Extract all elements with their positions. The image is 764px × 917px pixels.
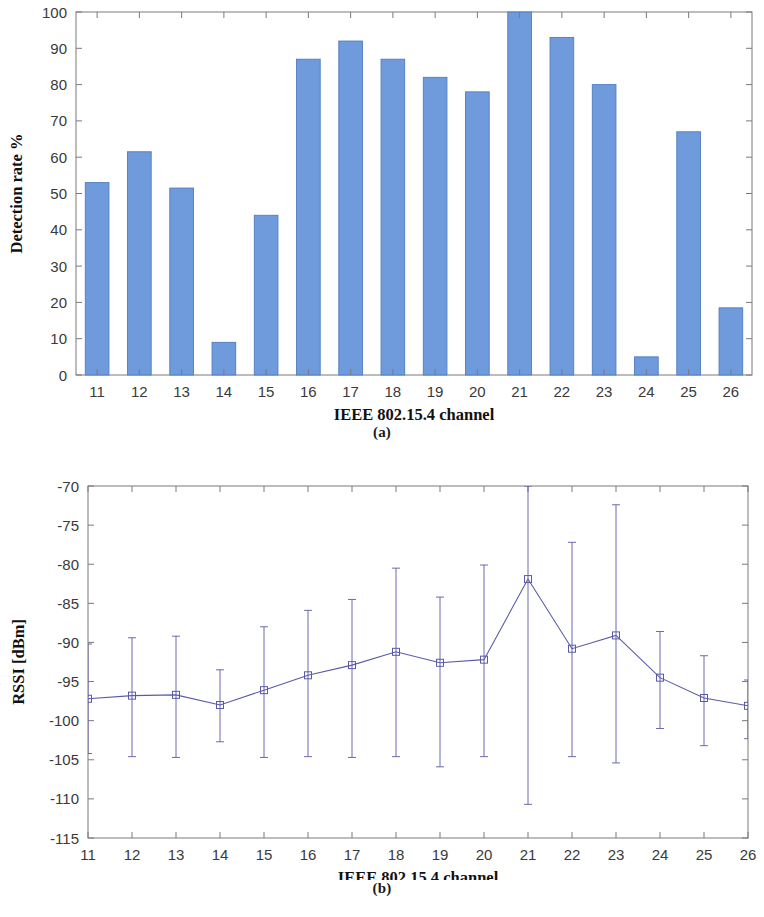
panel-a-caption: (a) <box>0 424 764 441</box>
y-tick-label: -70 <box>57 478 79 495</box>
y-tick-label: -110 <box>50 790 79 807</box>
y-tick-label: -95 <box>57 673 79 690</box>
y-tick-label: 100 <box>42 4 67 21</box>
x-tick-label: 26 <box>723 383 740 400</box>
x-tick-label: 19 <box>427 383 444 400</box>
x-tick-label: 25 <box>696 846 713 863</box>
x-tick-label: 14 <box>216 383 233 400</box>
y-tick-label: 90 <box>50 40 67 57</box>
x-tick-label: 19 <box>432 846 449 863</box>
x-tick-label: 21 <box>511 383 528 400</box>
x-tick-label: 23 <box>608 846 625 863</box>
bar <box>128 152 152 375</box>
y-tick-label: 70 <box>50 112 67 129</box>
bar <box>466 92 490 375</box>
x-tick-label: 13 <box>168 846 185 863</box>
x-tick-label: 16 <box>300 846 317 863</box>
x-tick-label: 14 <box>212 846 229 863</box>
bar <box>297 59 321 375</box>
x-tick-label: 25 <box>680 383 697 400</box>
bar <box>381 59 405 375</box>
rssi-line-chart: -115-110-105-100-95-90-85-80-75-70111213… <box>0 460 764 880</box>
bar <box>339 41 363 375</box>
x-tick-label: 21 <box>520 846 537 863</box>
series-group <box>84 486 752 804</box>
x-axis-title: IEEE 802.15.4 channel <box>338 868 499 880</box>
x-axis-title: IEEE 802.15.4 channel <box>334 405 495 420</box>
y-tick-label: -80 <box>57 556 79 573</box>
bar <box>677 132 701 375</box>
bar-chart: 0102030405060708090100111213141516171819… <box>0 0 764 420</box>
panel-b-caption: (b) <box>0 880 764 897</box>
x-tick-label: 17 <box>344 846 361 863</box>
x-tick-label: 20 <box>469 383 486 400</box>
x-tick-label: 18 <box>385 383 402 400</box>
y-tick-label: 40 <box>50 221 67 238</box>
x-tick-label: 18 <box>388 846 405 863</box>
bar <box>550 37 574 375</box>
y-tick-label: -115 <box>50 830 79 847</box>
bar <box>423 77 447 375</box>
y-tick-label: 0 <box>59 367 67 384</box>
x-tick-label: 11 <box>80 846 96 863</box>
x-tick-label: 16 <box>300 383 317 400</box>
x-tick-label: 24 <box>638 383 655 400</box>
plot-frame <box>88 486 748 838</box>
x-tick-label: 22 <box>564 846 581 863</box>
y-tick-label: -75 <box>57 517 79 534</box>
y-tick-label: 50 <box>50 185 67 202</box>
x-tick-label: 12 <box>124 846 141 863</box>
y-tick-label: -90 <box>57 634 79 651</box>
x-tick-label: 20 <box>476 846 493 863</box>
bar <box>254 215 278 375</box>
y-tick-label: -105 <box>49 751 79 768</box>
y-tick-label: -85 <box>57 595 79 612</box>
y-tick-label: 10 <box>50 330 67 347</box>
figure-panel-b: -115-110-105-100-95-90-85-80-75-70111213… <box>0 460 764 917</box>
figure-panel-a: 0102030405060708090100111213141516171819… <box>0 0 764 460</box>
bar <box>719 308 743 375</box>
bar <box>85 183 109 375</box>
x-tick-label: 26 <box>740 846 757 863</box>
x-tick-label: 11 <box>89 383 105 400</box>
y-tick-label: -100 <box>49 712 79 729</box>
data-line <box>88 579 748 706</box>
bar <box>170 188 194 375</box>
x-tick-label: 15 <box>258 383 275 400</box>
y-tick-label: 60 <box>50 149 67 166</box>
x-tick-label: 17 <box>342 383 359 400</box>
x-tick-label: 23 <box>596 383 613 400</box>
bar <box>508 12 532 375</box>
x-tick-label: 22 <box>554 383 571 400</box>
y-tick-label: 30 <box>50 258 67 275</box>
y-tick-label: 20 <box>50 294 67 311</box>
y-axis-title: RSSI [dBm] <box>9 619 28 705</box>
x-tick-label: 13 <box>173 383 190 400</box>
x-tick-label: 24 <box>652 846 669 863</box>
bar <box>592 85 616 375</box>
x-tick-label: 12 <box>131 383 148 400</box>
x-tick-label: 15 <box>256 846 273 863</box>
y-tick-label: 80 <box>50 76 67 93</box>
y-axis-title: Detection rate % <box>7 133 26 253</box>
